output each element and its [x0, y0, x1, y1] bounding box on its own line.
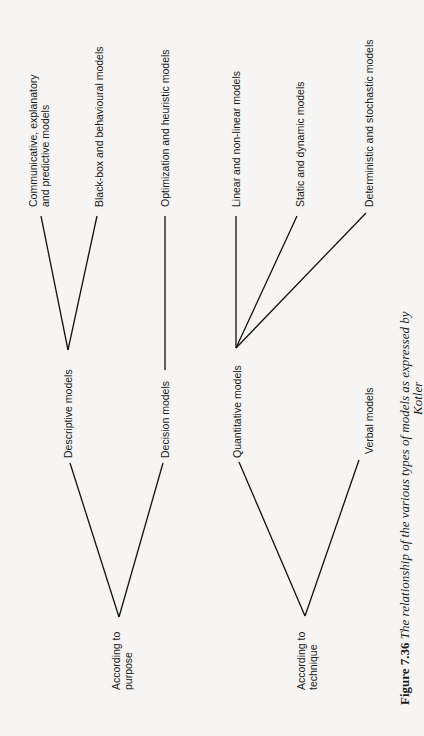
node-descriptive-models: Descriptive models	[62, 369, 74, 458]
node-according-to-technique: According to technique	[295, 632, 319, 690]
node-linear-models: Linear and non-linear models	[230, 71, 242, 207]
node-label: and predictive models	[39, 75, 51, 207]
node-deterministic-models: Deterministic and stochastic models	[363, 40, 375, 207]
edge-technique-quantitative	[239, 462, 305, 616]
node-decision-models: Decision models	[159, 381, 171, 458]
tree-connectors	[0, 0, 424, 736]
edge-descriptive-blackbox	[68, 216, 97, 350]
node-according-to-purpose: According to purpose	[110, 632, 134, 690]
node-optimization-models: Optimization and heuristic models	[159, 49, 171, 207]
node-verbal-models: Verbal models	[363, 387, 375, 454]
node-communicative-models: Communicative, explanatory and predictiv…	[27, 75, 51, 207]
edge-descriptive-communicative	[41, 216, 68, 350]
node-label: purpose	[122, 632, 134, 690]
node-label: Communicative, explanatory	[27, 75, 39, 207]
node-label: According to	[295, 632, 307, 690]
node-label: According to	[110, 632, 122, 690]
node-blackbox-models: Black-box and behavioural models	[93, 46, 105, 207]
caption-text: The relationship of the various types of…	[397, 312, 412, 640]
node-static-models: Static and dynamic models	[294, 82, 306, 207]
edge-purpose-descriptive	[70, 463, 119, 617]
figure-number: Figure 7.36	[397, 642, 412, 705]
edge-quantitative-static	[236, 216, 297, 348]
edge-quantitative-deterministic	[236, 213, 366, 348]
node-quantitative-models: Quantitative models	[231, 365, 243, 458]
node-label: technique	[307, 632, 319, 690]
edge-technique-verbal	[305, 460, 359, 616]
edge-purpose-decision	[119, 463, 163, 617]
figure-caption: Figure 7.36 The relationship of the vari…	[398, 312, 412, 705]
caption-line2: Kotler	[411, 382, 424, 415]
